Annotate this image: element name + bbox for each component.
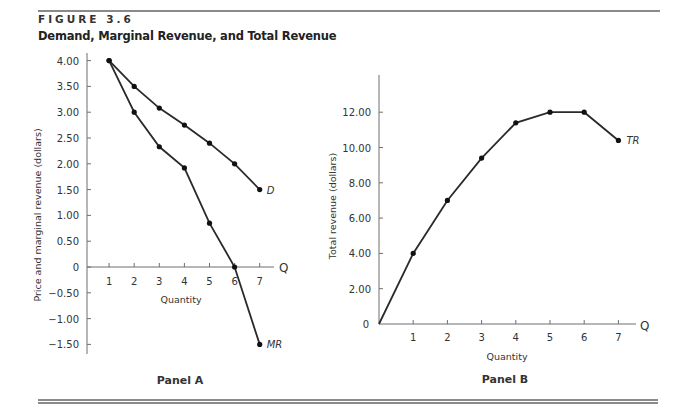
- x-tick-label: 3: [478, 332, 484, 343]
- data-point: [207, 221, 212, 226]
- panel-b-y-label: Total revenue (dollars): [327, 153, 338, 260]
- panel-b-series: TR: [379, 110, 639, 324]
- y-tick-label: 8.00: [349, 178, 371, 189]
- panel-b-x-label: Quantity: [486, 351, 527, 362]
- panel-a-q-label: Q: [279, 261, 288, 275]
- y-tick-label: 4.00: [349, 248, 371, 259]
- x-tick-label: 5: [206, 276, 212, 287]
- figure-chart: 4.003.503.002.502.001.501.000.500−0.50−1…: [0, 0, 677, 419]
- data-point: [132, 110, 137, 115]
- panel-a-series: DMR: [107, 58, 283, 350]
- y-tick-label: 2.00: [349, 284, 371, 295]
- panel-a-title: Panel A: [157, 374, 204, 387]
- bottom-rule-1: [38, 399, 658, 401]
- x-tick-label: 1: [106, 276, 112, 287]
- y-tick-label: 10.00: [342, 143, 371, 154]
- x-tick-label: 5: [547, 332, 553, 343]
- y-tick-label: 2.00: [57, 159, 79, 170]
- series-label-mr: MR: [267, 339, 283, 350]
- x-tick-label: 4: [181, 276, 187, 287]
- x-tick-label: 1: [410, 332, 416, 343]
- panel-b-title: Panel B: [482, 373, 528, 386]
- panel-b-chart: 02.004.006.008.0010.0012.00 1234567 TR Q…: [327, 75, 649, 386]
- data-point: [257, 187, 262, 192]
- bottom-rule-2: [38, 402, 658, 404]
- data-point: [411, 251, 416, 256]
- panel-b-x-ticks: 1234567: [410, 320, 622, 343]
- y-tick-label: 6.00: [349, 213, 371, 224]
- y-tick-label: 0.50: [57, 236, 79, 247]
- x-tick-label: 7: [615, 332, 621, 343]
- series-label-d: D: [267, 185, 275, 196]
- x-tick-label: 6: [581, 332, 587, 343]
- y-tick-label: 12.00: [342, 107, 371, 118]
- data-point: [257, 342, 262, 347]
- y-tick-label: 0: [363, 319, 369, 330]
- panel-a-chart: 4.003.503.002.502.001.501.000.500−0.50−1…: [32, 53, 288, 387]
- data-point: [582, 110, 587, 115]
- data-point: [445, 198, 450, 203]
- panel-b-q-label: Q: [640, 319, 649, 333]
- data-point: [157, 144, 162, 149]
- y-tick-label: 3.50: [57, 81, 79, 92]
- panel-a-x-label: Quantity: [160, 294, 201, 305]
- x-tick-label: 3: [156, 276, 162, 287]
- panel-b-y-ticks: 02.004.006.008.0010.0012.00: [342, 107, 383, 330]
- data-point: [207, 141, 212, 146]
- y-tick-label: −0.50: [48, 288, 79, 299]
- y-tick-label: 2.50: [57, 133, 79, 144]
- data-point: [157, 105, 162, 110]
- data-point: [547, 110, 552, 115]
- data-point: [616, 138, 621, 143]
- series-line-tr: [379, 112, 618, 324]
- x-tick-label: 4: [513, 332, 519, 343]
- x-tick-label: 7: [257, 276, 263, 287]
- panel-a-y-label: Price and marginal revenue (dollars): [32, 128, 43, 301]
- y-tick-label: 4.00: [57, 56, 79, 67]
- data-point: [479, 155, 484, 160]
- data-point: [107, 58, 112, 63]
- data-point: [132, 84, 137, 89]
- y-tick-label: 0: [73, 262, 79, 273]
- data-point: [513, 120, 518, 125]
- panel-a-y-ticks: 4.003.503.002.502.001.501.000.500−0.50−1…: [48, 56, 91, 351]
- data-point: [232, 264, 237, 269]
- y-tick-label: 3.00: [57, 107, 79, 118]
- y-tick-label: −1.50: [48, 339, 79, 350]
- y-tick-label: −1.00: [48, 314, 79, 325]
- x-tick-label: 2: [444, 332, 450, 343]
- x-tick-label: 2: [131, 276, 137, 287]
- data-point: [232, 161, 237, 166]
- y-tick-label: 1.00: [57, 210, 79, 221]
- series-label-tr: TR: [626, 135, 639, 146]
- data-point: [182, 165, 187, 170]
- data-point: [182, 123, 187, 128]
- y-tick-label: 1.50: [57, 185, 79, 196]
- x-tick-label: 6: [231, 276, 237, 287]
